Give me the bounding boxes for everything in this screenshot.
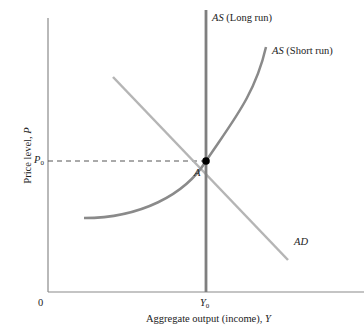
x-tick-y0: Y0 xyxy=(200,298,209,310)
sras-curve xyxy=(84,47,266,218)
x-axis-label: Aggregate output (income), Y xyxy=(146,314,271,325)
ad-label: AD xyxy=(294,237,308,248)
y-tick-p0: P0 xyxy=(34,155,44,167)
equilibrium-label: A xyxy=(194,168,200,179)
origin-label: 0 xyxy=(38,298,43,309)
lras-label: AS (Long run) xyxy=(212,13,272,24)
sras-label: AS (Short run) xyxy=(272,46,333,57)
y-axis-label: Price level, P xyxy=(22,101,33,211)
equilibrium-point xyxy=(202,157,210,165)
